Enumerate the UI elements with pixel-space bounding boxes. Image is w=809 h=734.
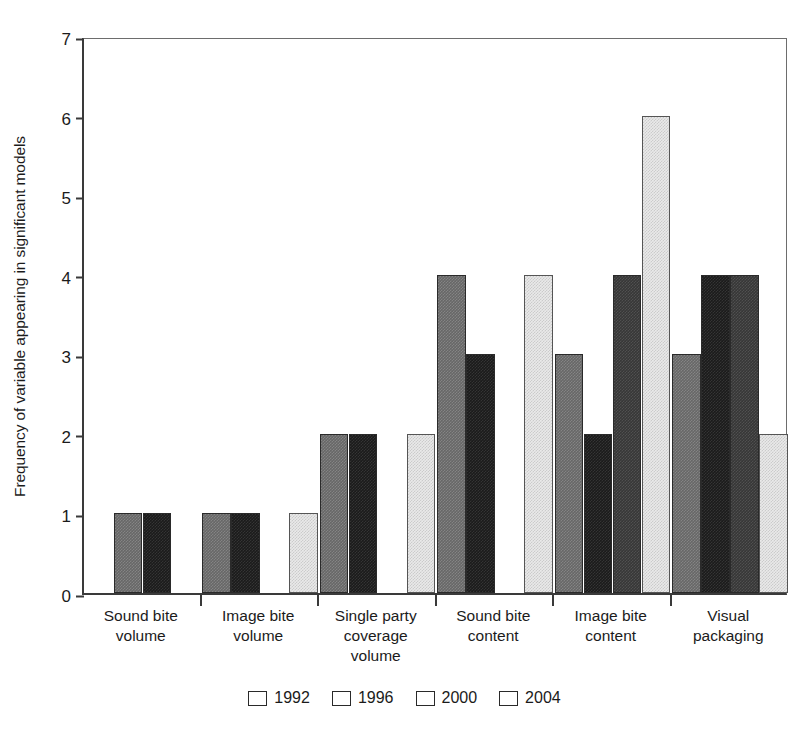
legend-swatch-icon: [416, 691, 435, 706]
bar-series-layer: [84, 39, 786, 593]
category-label-line: volume: [317, 646, 435, 666]
x-axis-separator: [435, 595, 437, 606]
y-tick-mark: [76, 277, 84, 279]
y-tick-label: 7: [62, 31, 76, 48]
y-tick-label: 3: [62, 349, 76, 366]
legend-swatch-icon: [499, 691, 518, 706]
category-label-line: packaging: [670, 626, 788, 646]
category-label-line: Sound bite: [82, 606, 200, 626]
legend-label: 2000: [442, 690, 478, 706]
category-label-line: volume: [200, 626, 318, 646]
y-axis-title: Frequency of variable appearing in signi…: [6, 38, 34, 595]
legend-item-2000[interactable]: 2000: [416, 690, 478, 706]
category-label-line: Single party: [317, 606, 435, 626]
y-tick-1: 1: [62, 508, 84, 525]
bar-2004-group-4: [524, 275, 553, 593]
x-axis-separator: [552, 595, 554, 606]
category-label-line: Visual: [670, 606, 788, 626]
y-tick-5: 5: [62, 190, 84, 207]
plot-area: 01234567: [82, 38, 787, 595]
x-axis-category-label-5: Image bitecontent: [552, 606, 670, 646]
y-tick-mark: [76, 118, 84, 120]
y-tick-6: 6: [62, 110, 84, 127]
y-tick-4: 4: [62, 269, 84, 286]
legend-swatch-icon: [248, 691, 267, 706]
category-label-line: Image bite: [552, 606, 670, 626]
bar-1996-group-2: [231, 513, 260, 593]
y-tick-7: 7: [62, 31, 84, 48]
legend-label: 1992: [274, 690, 310, 706]
x-axis-separator: [200, 595, 202, 606]
y-tick-label: 6: [62, 110, 76, 127]
bar-1992-group-3: [320, 434, 349, 593]
bar-chart-figure: Frequency of variable appearing in signi…: [0, 0, 809, 734]
y-tick-label: 1: [62, 508, 76, 525]
y-tick-0: 0: [62, 588, 84, 605]
y-tick-label: 2: [62, 428, 76, 445]
bar-2000-group-5: [613, 275, 642, 593]
legend-item-1992[interactable]: 1992: [248, 690, 310, 706]
bar-2004-group-5: [642, 116, 671, 593]
legend-item-1996[interactable]: 1996: [332, 690, 394, 706]
category-label-line: Sound bite: [435, 606, 553, 626]
bar-2004-group-3: [407, 434, 436, 593]
bar-1996-group-5: [584, 434, 613, 593]
bar-1996-group-6: [701, 275, 730, 593]
y-tick-label: 4: [62, 269, 76, 286]
x-axis-category-label-1: Sound bitevolume: [82, 606, 200, 646]
legend-label: 2004: [525, 690, 561, 706]
chart-legend: 1992199620002004: [0, 690, 809, 706]
x-axis-category-label-2: Image bitevolume: [200, 606, 318, 646]
x-axis-category-label-4: Sound bitecontent: [435, 606, 553, 646]
x-axis-category-label-6: Visualpackaging: [670, 606, 788, 646]
legend-swatch-icon: [332, 691, 351, 706]
bar-1992-group-5: [555, 354, 584, 593]
y-tick-mark: [76, 38, 84, 40]
category-label-line: content: [435, 626, 553, 646]
y-tick-mark: [76, 436, 84, 438]
category-label-line: content: [552, 626, 670, 646]
x-axis-category-label-3: Single partycoveragevolume: [317, 606, 435, 665]
x-axis-separator: [317, 595, 319, 606]
bar-1996-group-4: [466, 354, 495, 593]
y-tick-label: 5: [62, 190, 76, 207]
category-label-line: volume: [82, 626, 200, 646]
bar-1992-group-1: [114, 513, 143, 593]
y-tick-mark: [76, 356, 84, 358]
y-tick-label: 0: [62, 588, 76, 605]
x-axis-separator: [670, 595, 672, 606]
bar-1996-group-1: [143, 513, 172, 593]
bar-1992-group-2: [202, 513, 231, 593]
y-tick-mark: [76, 595, 84, 597]
bar-1992-group-6: [672, 354, 701, 593]
bar-1996-group-3: [349, 434, 378, 593]
y-tick-3: 3: [62, 349, 84, 366]
y-tick-2: 2: [62, 428, 84, 445]
bar-2004-group-2: [289, 513, 318, 593]
category-label-line: coverage: [317, 626, 435, 646]
bar-1992-group-4: [437, 275, 466, 593]
bar-2004-group-6: [759, 434, 788, 593]
y-tick-mark: [76, 515, 84, 517]
category-label-line: Image bite: [200, 606, 318, 626]
legend-item-2004[interactable]: 2004: [499, 690, 561, 706]
legend-label: 1996: [358, 690, 394, 706]
bar-2000-group-6: [730, 275, 759, 593]
y-tick-mark: [76, 197, 84, 199]
